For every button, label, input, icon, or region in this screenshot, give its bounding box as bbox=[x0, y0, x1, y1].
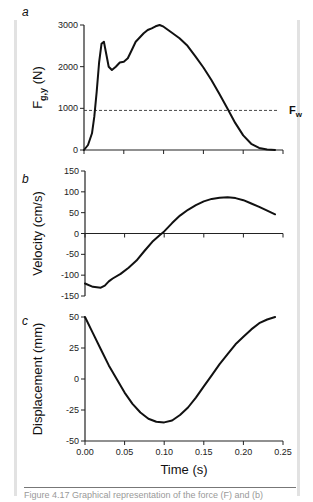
x-tick-label: 0.00 bbox=[76, 447, 94, 457]
y-tick-label: 1000 bbox=[58, 103, 78, 113]
y-tick-label: -150 bbox=[61, 291, 79, 301]
series-line-a bbox=[84, 25, 275, 150]
y-tick-label: 0 bbox=[74, 229, 79, 239]
y-tick-label: 25 bbox=[69, 343, 79, 353]
y-tick-label: 0 bbox=[74, 374, 79, 384]
y-axis-title: Displacement (mm) bbox=[30, 323, 45, 436]
x-tick-label: 0.20 bbox=[235, 447, 253, 457]
y-tick-label: 100 bbox=[64, 187, 79, 197]
y-tick-label: 0 bbox=[73, 145, 78, 155]
panel-letter-c: c bbox=[22, 314, 28, 328]
y-tick-label: 50 bbox=[69, 312, 79, 322]
series-line-b bbox=[85, 197, 275, 287]
x-tick-label: 0.10 bbox=[155, 447, 173, 457]
series-line-c bbox=[85, 317, 275, 422]
x-tick-label: 0.25 bbox=[274, 447, 292, 457]
reference-line-label: Fw bbox=[289, 104, 303, 119]
x-tick-label: 0.15 bbox=[195, 447, 213, 457]
panel-letter-b: b bbox=[22, 172, 29, 186]
y-tick-label: 50 bbox=[69, 208, 79, 218]
panel-letter-a: a bbox=[22, 5, 29, 19]
y-tick-label: 2000 bbox=[58, 62, 78, 72]
x-axis-title: Time (s) bbox=[160, 462, 207, 477]
caption-rule bbox=[24, 487, 296, 488]
y-axis-title: Velocity (cm/s) bbox=[30, 191, 45, 276]
y-axis-title: Fg,y (N) bbox=[30, 66, 48, 109]
figure-caption: Figure 4.17 Graphical representation of … bbox=[24, 490, 296, 502]
y-tick-label: -100 bbox=[61, 270, 79, 280]
y-tick-label: -25 bbox=[66, 405, 79, 415]
y-tick-label: -50 bbox=[66, 249, 79, 259]
x-tick-label: 0.05 bbox=[116, 447, 134, 457]
y-tick-label: -50 bbox=[66, 436, 79, 446]
y-tick-label: 3000 bbox=[58, 20, 78, 30]
y-tick-label: 150 bbox=[64, 166, 79, 176]
